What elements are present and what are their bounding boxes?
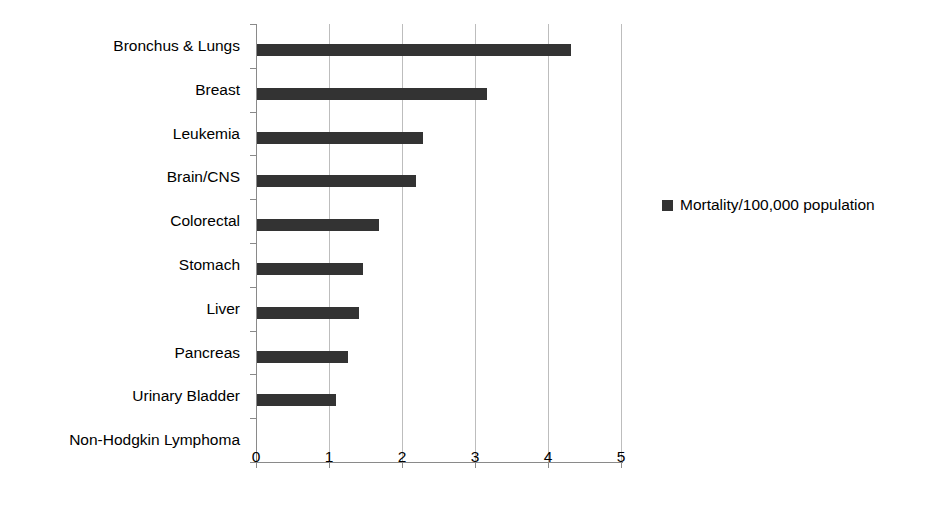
y-axis-tick bbox=[250, 68, 256, 69]
bar bbox=[257, 307, 359, 319]
category-label: Brain/CNS bbox=[0, 168, 240, 186]
bar bbox=[257, 219, 379, 231]
bar bbox=[257, 44, 571, 56]
bar bbox=[257, 88, 487, 100]
y-axis-tick bbox=[250, 112, 256, 113]
category-label: Liver bbox=[0, 300, 240, 318]
bar bbox=[257, 175, 416, 187]
y-axis-tick bbox=[250, 287, 256, 288]
x-axis-tick-label: 1 bbox=[309, 448, 349, 466]
y-axis-tick bbox=[250, 243, 256, 244]
bar bbox=[257, 132, 423, 144]
legend-swatch-icon bbox=[662, 200, 673, 211]
category-label: Urinary Bladder bbox=[0, 387, 240, 405]
y-axis-tick bbox=[250, 418, 256, 419]
category-axis-labels: Bronchus & LungsBreastLeukemiaBrain/CNSC… bbox=[0, 24, 248, 462]
category-label: Leukemia bbox=[0, 125, 240, 143]
category-label: Bronchus & Lungs bbox=[0, 37, 240, 55]
bar bbox=[257, 394, 336, 406]
y-axis-tick bbox=[250, 24, 256, 25]
bar bbox=[257, 263, 363, 275]
y-axis-tick bbox=[250, 199, 256, 200]
x-axis-tick-label: 4 bbox=[528, 448, 568, 466]
category-label: Pancreas bbox=[0, 344, 240, 362]
bar bbox=[257, 351, 348, 363]
category-label: Stomach bbox=[0, 256, 240, 274]
x-axis-tick-label: 0 bbox=[236, 448, 276, 466]
legend-label: Mortality/100,000 population bbox=[680, 196, 875, 214]
bar-chart: Bronchus & LungsBreastLeukemiaBrain/CNSC… bbox=[0, 0, 936, 518]
y-axis-tick bbox=[250, 331, 256, 332]
x-axis-tick-label: 2 bbox=[382, 448, 422, 466]
x-axis-tick-label: 3 bbox=[455, 448, 495, 466]
y-axis-tick bbox=[250, 155, 256, 156]
gridline bbox=[548, 24, 549, 462]
category-label: Breast bbox=[0, 81, 240, 99]
category-label: Colorectal bbox=[0, 212, 240, 230]
chart-legend: Mortality/100,000 population bbox=[662, 196, 875, 214]
plot-area bbox=[256, 24, 622, 462]
category-label: Non-Hodgkin Lymphoma bbox=[0, 431, 240, 449]
gridline bbox=[621, 24, 622, 462]
y-axis-tick bbox=[250, 374, 256, 375]
x-axis-tick-label: 5 bbox=[601, 448, 641, 466]
